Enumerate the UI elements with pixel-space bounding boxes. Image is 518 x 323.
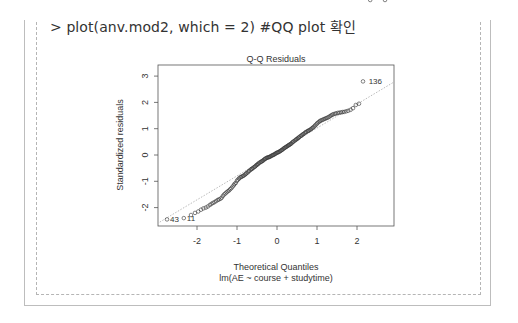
data-points (165, 0, 387, 221)
x-tick-label: -2 (193, 236, 201, 246)
y-tick-label: 3 (140, 74, 150, 79)
y-tick-label: 2 (140, 100, 150, 105)
y-axis-label: Standardized residuals (115, 99, 125, 191)
x-tick-label: 1 (314, 236, 319, 246)
x-tick-label: 2 (354, 236, 359, 246)
data-point (361, 80, 365, 84)
point-label: 136 (369, 77, 383, 86)
qq-plot: Q-Q Residuals 4311136 -2-1012 -2-10123 T… (0, 0, 518, 323)
point-label: 11 (187, 214, 196, 223)
chart-title: Q-Q Residuals (246, 54, 306, 64)
x-tick-label: -1 (233, 236, 241, 246)
data-point (383, 0, 387, 2)
data-point (357, 102, 361, 106)
x-axis: -2-1012 (193, 226, 360, 246)
data-point (368, 0, 372, 2)
point-label: 43 (170, 215, 179, 224)
y-tick-label: -1 (140, 177, 150, 185)
data-point (165, 218, 169, 222)
y-tick-label: 1 (140, 126, 150, 131)
data-point (182, 216, 186, 220)
x-tick-label: 0 (274, 236, 279, 246)
y-tick-label: -2 (140, 204, 150, 212)
y-axis: -2-10123 (140, 74, 158, 212)
model-formula-label: lm(AE ~ course + studytime) (219, 273, 333, 283)
y-tick-label: 0 (140, 152, 150, 157)
x-axis-label: Theoretical Quantiles (233, 262, 319, 272)
